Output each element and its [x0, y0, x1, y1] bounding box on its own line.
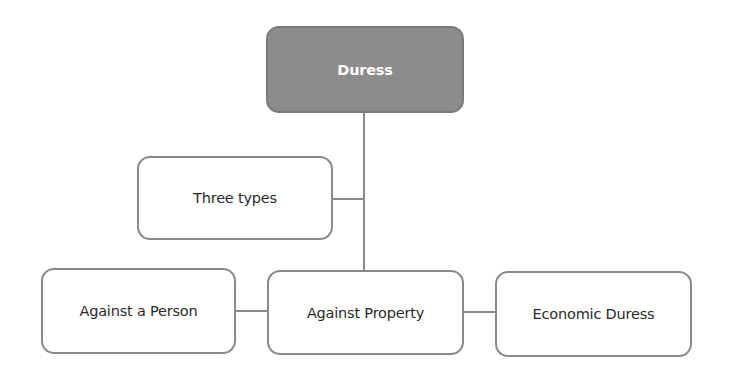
node-against-property: Against Property — [267, 270, 464, 355]
duress-diagram: Duress Three types Against a Person Agai… — [0, 0, 730, 383]
node-three-types: Three types — [137, 156, 333, 240]
node-duress: Duress — [266, 26, 464, 113]
node-against-a-person-label: Against a Person — [79, 303, 197, 319]
node-economic-duress: Economic Duress — [495, 271, 692, 357]
node-against-property-label: Against Property — [307, 305, 424, 321]
node-against-a-person: Against a Person — [41, 268, 236, 354]
node-duress-label: Duress — [337, 62, 392, 78]
node-three-types-label: Three types — [193, 190, 277, 206]
node-economic-duress-label: Economic Duress — [533, 306, 655, 322]
